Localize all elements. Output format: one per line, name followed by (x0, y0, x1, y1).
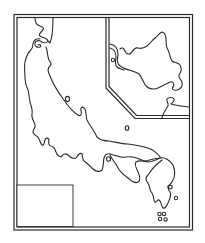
map-canvas (0, 0, 205, 243)
main-island-coastline (25, 18, 175, 208)
outline-map: Outline map (0, 0, 205, 243)
small-island (66, 96, 70, 101)
legend-box (17, 185, 73, 227)
inset-island-coastline (110, 32, 182, 90)
small-island (107, 157, 111, 161)
island-cluster (158, 212, 167, 221)
small-island (111, 58, 114, 62)
small-island (174, 196, 177, 200)
small-island (125, 126, 129, 131)
